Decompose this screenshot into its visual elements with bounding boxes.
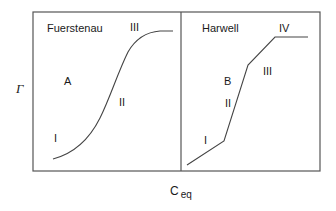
region-label-a: A — [64, 75, 72, 87]
region-label-iii: III — [263, 65, 272, 77]
region-label-i: I — [204, 134, 207, 146]
panel-harwell: Harwell B I II III IV — [187, 22, 308, 165]
x-axis-label: Ceq — [170, 184, 192, 200]
region-label-i: I — [54, 132, 57, 144]
fuerstenau-curve — [53, 31, 173, 159]
panel-title-fuerstenau: Fuerstenau — [47, 22, 103, 34]
adsorption-isotherm-diagram: Fuerstenau A I II III Harwell B I II III… — [0, 0, 336, 211]
figure-frame — [33, 12, 320, 171]
region-label-iii: III — [130, 21, 139, 33]
y-axis-label: Γ — [15, 81, 24, 96]
region-label-iv: IV — [279, 22, 290, 34]
x-axis-label-main: C — [170, 184, 179, 198]
region-label-b: B — [224, 75, 231, 87]
panel-fuerstenau: Fuerstenau A I II III — [47, 21, 173, 159]
x-axis-label-subscript: eq — [181, 189, 192, 200]
region-label-ii: II — [225, 97, 231, 109]
region-label-ii: II — [119, 96, 125, 108]
panel-title-harwell: Harwell — [202, 22, 239, 34]
